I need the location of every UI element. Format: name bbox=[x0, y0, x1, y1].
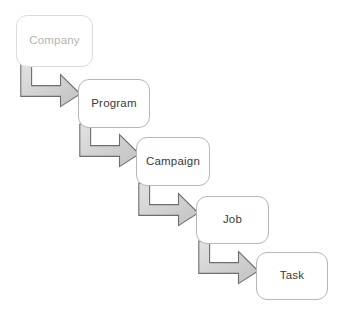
arrow-campaign-to-job bbox=[139, 183, 198, 226]
node-program-label: Program bbox=[91, 98, 137, 110]
node-job[interactable]: Job bbox=[196, 196, 269, 244]
node-campaign[interactable]: Campaign bbox=[136, 137, 210, 186]
arrow-job-to-task bbox=[199, 241, 258, 284]
node-program[interactable]: Program bbox=[78, 79, 150, 128]
node-task[interactable]: Task bbox=[256, 252, 328, 300]
arrow-company-to-program bbox=[21, 64, 80, 107]
arrow-program-to-campaign bbox=[80, 124, 139, 167]
node-job-label: Job bbox=[223, 214, 242, 226]
node-task-label: Task bbox=[280, 270, 304, 282]
node-campaign-label: Campaign bbox=[146, 156, 200, 168]
hierarchy-diagram: Company Program Campaign Job Task bbox=[0, 0, 343, 319]
node-company-label: Company bbox=[29, 35, 80, 47]
node-company[interactable]: Company bbox=[16, 15, 93, 67]
